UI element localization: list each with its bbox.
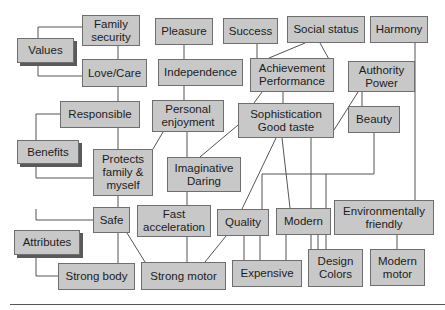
connector-line: [36, 164, 93, 178]
node-strong-body: Strong body: [58, 263, 135, 290]
connector-line: [262, 133, 374, 209]
connector-line: [36, 114, 60, 140]
connector-line: [282, 138, 290, 208]
connector-line: [36, 255, 58, 276]
node-fast-acceleration: Fast acceleration: [137, 205, 211, 237]
connector-line: [153, 132, 163, 149]
connector-line: [38, 27, 82, 38]
node-modern: Modern: [276, 208, 331, 235]
node-strong-motor: Strong motor: [141, 262, 226, 290]
node-imaginative-daring: Imaginative Daring: [167, 157, 241, 192]
connector-line: [127, 233, 145, 262]
node-success: Success: [223, 18, 278, 44]
node-independence: Independence: [158, 59, 243, 86]
node-environmentally-friendly: Environmentally friendly: [334, 200, 434, 235]
node-modern-motor: Modern motor: [370, 249, 425, 286]
node-design-colors: Design Colors: [308, 249, 363, 287]
node-responsible: Responsible: [60, 101, 140, 128]
means-end-diagram: ValuesBenefitsAttributes Family security…: [0, 0, 445, 310]
node-social-status: Social status: [287, 16, 365, 43]
connector-line: [205, 236, 226, 262]
node-safe: Safe: [93, 207, 130, 233]
node-achievement-performance: Achievement Performance: [250, 58, 334, 92]
connector-line: [269, 43, 305, 58]
node-expensive: Expensive: [232, 260, 302, 287]
node-sophistication-good-taste: Sophistication Good taste: [238, 103, 334, 138]
node-harmony: Harmony: [370, 16, 428, 43]
level-values: Values: [17, 38, 74, 63]
node-family-security: Family security: [82, 15, 140, 46]
connector-line: [36, 209, 93, 220]
node-protects-family-myself: Protects family & myself: [93, 149, 153, 196]
node-beauty: Beauty: [348, 106, 400, 133]
level-benefits: Benefits: [17, 140, 79, 164]
bottom-divider: [10, 304, 445, 305]
node-love-care: Love/Care: [82, 59, 147, 87]
node-authority-power: Authority Power: [348, 61, 415, 92]
node-personal-enjoyment: Personal enjoyment: [152, 100, 224, 132]
level-attributes: Attributes: [14, 230, 80, 255]
connector-line: [254, 92, 262, 103]
connector-line: [38, 63, 82, 76]
node-pleasure: Pleasure: [155, 18, 213, 45]
node-quality: Quality: [217, 209, 269, 236]
